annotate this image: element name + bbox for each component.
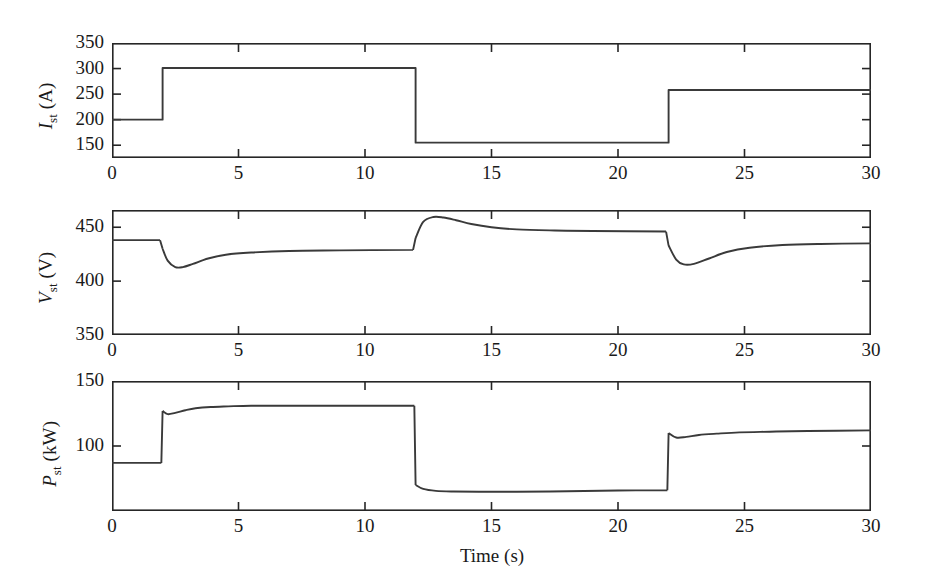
series-line-power	[112, 406, 871, 492]
plot-area-voltage	[112, 210, 871, 335]
x-tick-label-power-0: 0	[87, 515, 137, 537]
x-tick-label-current-30: 30	[846, 162, 896, 184]
x-tick-label-current-15: 15	[467, 162, 517, 184]
x-tick-label-current-10: 10	[340, 162, 390, 184]
y-tick-label-current-250: 250	[46, 82, 104, 104]
x-tick-label-power-20: 20	[593, 515, 643, 537]
y-axis-label-power-sub: st	[49, 466, 64, 475]
x-tick-label-power-5: 5	[214, 515, 264, 537]
panel-current	[112, 43, 871, 158]
series-line-current	[112, 68, 871, 143]
x-tick-label-voltage-10: 10	[340, 339, 390, 361]
x-tick-label-current-5: 5	[214, 162, 264, 184]
plot-frame-voltage	[113, 211, 870, 334]
x-tick-label-power-25: 25	[720, 515, 770, 537]
x-tick-label-power-10: 10	[340, 515, 390, 537]
y-tick-label-current-150: 150	[46, 133, 104, 155]
y-tick-label-current-300: 300	[46, 57, 104, 79]
y-tick-label-power-150: 150	[46, 369, 104, 391]
panel-power	[112, 381, 871, 511]
x-axis-title: Time (s)	[392, 545, 592, 567]
plot-area-current	[112, 43, 871, 158]
x-tick-label-power-30: 30	[846, 515, 896, 537]
x-tick-label-current-25: 25	[720, 162, 770, 184]
y-axis-label-voltage-var: V	[35, 292, 56, 304]
panel-voltage	[112, 210, 871, 335]
x-tick-label-voltage-15: 15	[467, 339, 517, 361]
y-axis-label-power-var: P	[39, 475, 60, 487]
x-tick-label-voltage-20: 20	[593, 339, 643, 361]
y-tick-label-voltage-400: 400	[46, 269, 104, 291]
figure-container: Ist (A) Vst (V) Pst (kW) Time (s) 150200…	[0, 0, 925, 585]
y-tick-label-power-100: 100	[46, 434, 104, 456]
x-tick-label-current-20: 20	[593, 162, 643, 184]
y-tick-label-current-200: 200	[46, 108, 104, 130]
y-tick-label-current-350: 350	[46, 31, 104, 53]
x-tick-label-voltage-0: 0	[87, 339, 137, 361]
series-line-voltage	[112, 217, 871, 268]
x-tick-label-voltage-30: 30	[846, 339, 896, 361]
x-tick-label-voltage-25: 25	[720, 339, 770, 361]
plot-area-power	[112, 381, 871, 511]
x-tick-label-voltage-5: 5	[214, 339, 264, 361]
x-tick-label-power-15: 15	[467, 515, 517, 537]
y-tick-label-voltage-450: 450	[46, 215, 104, 237]
plot-frame-current	[113, 44, 870, 157]
x-tick-label-current-0: 0	[87, 162, 137, 184]
